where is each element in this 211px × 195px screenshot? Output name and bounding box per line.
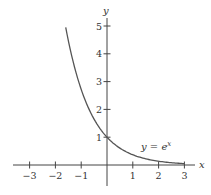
y-tick-label: 5 — [96, 21, 102, 32]
y-tick-label: 4 — [96, 48, 102, 59]
curve-label-sup: x — [167, 140, 171, 148]
y-axis-label: y — [102, 5, 109, 16]
y-tick-label: 3 — [96, 76, 102, 87]
x-tick-label: 3 — [181, 170, 187, 181]
exponential-plot: −3−2−1123 12345 x y y = ex — [0, 0, 211, 195]
x-tick-label: 1 — [130, 170, 136, 181]
y-tick-label: 2 — [96, 104, 102, 115]
x-tick-label: −1 — [74, 170, 88, 181]
x-axis-label: x — [199, 159, 205, 170]
x-tick-label: 2 — [156, 170, 162, 181]
y-tick-label: 1 — [96, 132, 102, 143]
axes — [13, 18, 195, 186]
x-tick-label: −3 — [23, 170, 37, 181]
y-ticks: 12345 — [96, 21, 111, 143]
curve-label-base: y = e — [140, 141, 167, 152]
curve-label: y = ex — [140, 140, 171, 152]
x-ticks: −3−2−1123 — [23, 162, 188, 182]
x-tick-label: −2 — [48, 170, 62, 181]
